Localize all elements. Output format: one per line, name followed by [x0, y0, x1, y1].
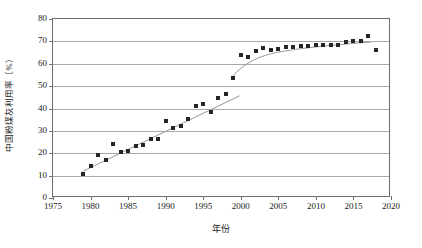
data-point — [239, 53, 243, 57]
x-axis-tick — [53, 196, 54, 200]
x-axis-tick — [353, 196, 354, 200]
data-point — [194, 104, 198, 108]
x-axis-tick — [91, 196, 92, 200]
x-axis-tick — [203, 196, 204, 200]
x-axis-tick — [316, 196, 317, 200]
x-axis-tick-label: 2015 — [333, 201, 373, 211]
data-point — [126, 149, 130, 153]
data-point — [224, 92, 228, 96]
x-axis-tick-label: 2020 — [371, 201, 411, 211]
gridline-y — [53, 176, 389, 177]
y-axis-tick-label: 50 — [17, 81, 47, 90]
x-axis-tick — [166, 196, 167, 200]
data-point — [201, 102, 205, 106]
plot-area: 0102030405060708019751980198519901995200… — [52, 18, 390, 197]
data-point — [104, 158, 108, 162]
data-point — [299, 44, 303, 48]
data-point — [246, 55, 250, 59]
data-point — [209, 110, 213, 114]
data-point — [366, 34, 370, 38]
x-axis-tick — [128, 196, 129, 200]
gridline-y — [53, 109, 389, 110]
figure: 中国粉煤灰利用率（%） 0102030405060708019751980198… — [0, 0, 422, 248]
data-point — [261, 46, 265, 50]
data-point — [284, 45, 288, 49]
data-point — [141, 143, 145, 147]
y-axis-tick-label: 40 — [17, 104, 47, 113]
data-point — [291, 45, 295, 49]
data-point — [254, 49, 258, 53]
data-point — [216, 96, 220, 100]
y-axis-tick — [49, 19, 53, 20]
data-point — [111, 142, 115, 146]
x-axis-tick-label: 1990 — [146, 201, 186, 211]
x-axis-tick-label: 1985 — [108, 201, 148, 211]
y-axis-tick — [49, 176, 53, 177]
x-axis-title: 年份 — [52, 222, 390, 235]
x-axis-tick-label: 1975 — [33, 201, 73, 211]
gridline-y — [53, 131, 389, 132]
x-axis-tick — [241, 196, 242, 200]
data-point — [149, 137, 153, 141]
y-axis-tick-label: 80 — [17, 14, 47, 23]
gridline-y — [53, 153, 389, 154]
x-axis-tick-label: 2005 — [258, 201, 298, 211]
y-axis-tick — [49, 153, 53, 154]
data-point — [321, 43, 325, 47]
x-axis-tick-label: 1995 — [183, 201, 223, 211]
data-point — [81, 172, 85, 176]
data-point — [314, 43, 318, 47]
data-point — [119, 150, 123, 154]
data-point — [171, 126, 175, 130]
y-axis-tick — [49, 64, 53, 65]
data-point — [186, 117, 190, 121]
y-axis-tick-label: 10 — [17, 171, 47, 180]
data-point — [374, 48, 378, 52]
y-axis-tick — [49, 131, 53, 132]
gridline-y — [53, 86, 389, 87]
y-axis-title: 中国粉煤灰利用率（%） — [2, 0, 16, 28]
x-axis-tick-label: 1980 — [71, 201, 111, 211]
data-point — [329, 43, 333, 47]
x-axis-tick — [278, 196, 279, 200]
y-axis-tick — [49, 86, 53, 87]
y-axis-title-text: 中国粉煤灰利用率（%） — [2, 28, 16, 178]
data-point — [164, 119, 168, 123]
data-point — [231, 76, 235, 80]
y-axis-tick — [49, 41, 53, 42]
data-point — [269, 48, 273, 52]
data-point — [156, 137, 160, 141]
gridline-y — [53, 64, 389, 65]
x-axis-tick-label: 2000 — [221, 201, 261, 211]
data-point — [89, 164, 93, 168]
data-point — [359, 39, 363, 43]
y-axis-tick-label: 60 — [17, 59, 47, 68]
x-axis-tick-label: 2010 — [296, 201, 336, 211]
data-point — [276, 47, 280, 51]
data-point — [134, 144, 138, 148]
data-point — [344, 40, 348, 44]
y-axis-tick — [49, 109, 53, 110]
data-point — [351, 39, 355, 43]
data-point — [306, 44, 310, 48]
y-axis-tick-label: 20 — [17, 148, 47, 157]
data-point — [336, 43, 340, 47]
data-point — [96, 153, 100, 157]
x-axis-tick — [391, 196, 392, 200]
y-axis-tick-label: 70 — [17, 36, 47, 45]
y-axis-tick-label: 30 — [17, 126, 47, 135]
data-point — [179, 124, 183, 128]
